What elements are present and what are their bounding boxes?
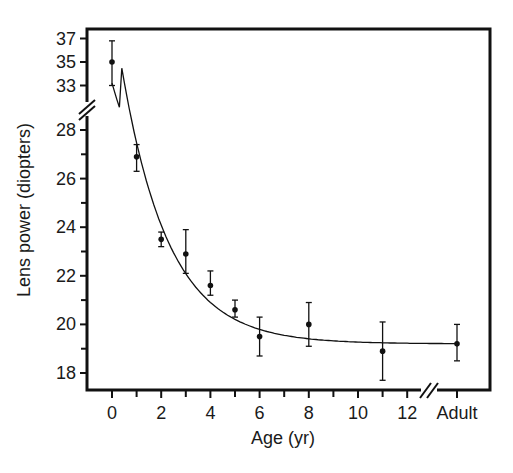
data-point <box>306 303 312 347</box>
data-point <box>380 322 386 380</box>
data-point <box>454 324 460 360</box>
lens-power-chart: 182022242628333537 024681012Adult Lens p… <box>0 0 513 473</box>
x-tick-label: 4 <box>205 403 215 423</box>
x-tick-label: 6 <box>255 403 265 423</box>
y-tick-label: 20 <box>56 314 76 334</box>
y-tick-label: 28 <box>56 120 76 140</box>
data-point <box>183 230 189 274</box>
x-tick-label: 12 <box>397 403 417 423</box>
y-axis-title: Lens power (diopters) <box>14 123 34 297</box>
x-tick-label: 0 <box>107 403 117 423</box>
y-tick-label: 24 <box>56 217 76 237</box>
x-tick-label: 8 <box>304 403 314 423</box>
data-point <box>257 317 263 356</box>
x-tick-label: Adult <box>436 403 477 423</box>
data-point <box>232 300 238 317</box>
y-axis: 182022242628333537 <box>56 29 87 384</box>
data-point <box>134 145 140 172</box>
fit-curve <box>112 68 459 344</box>
data-point <box>109 41 115 86</box>
data-point <box>207 271 213 295</box>
y-tick-label: 26 <box>56 169 76 189</box>
y-tick-label: 33 <box>56 76 76 96</box>
y-tick-label: 18 <box>56 363 76 383</box>
data-point <box>158 232 164 247</box>
y-tick-label: 22 <box>56 266 76 286</box>
x-axis-title: Age (yr) <box>251 428 315 448</box>
y-tick-label: 37 <box>56 29 76 49</box>
x-tick-label: 10 <box>348 403 368 423</box>
x-tick-label: 2 <box>156 403 166 423</box>
data-points <box>109 41 460 380</box>
y-tick-label: 35 <box>56 52 76 72</box>
